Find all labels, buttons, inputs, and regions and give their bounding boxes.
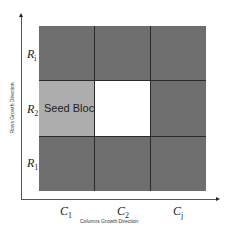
block-r2-c2	[95, 81, 150, 135]
seed-block-label: Seed Block	[44, 102, 100, 114]
col-label-subscript: j	[181, 211, 183, 220]
x-axis-arrow-icon	[216, 197, 220, 201]
block-ri-c2	[95, 26, 150, 80]
row-label-ri: Ri	[27, 47, 37, 63]
row-label-r1: R1	[27, 156, 38, 172]
col-label-c1: C1	[60, 204, 72, 220]
row-label-subscript: 2	[34, 109, 38, 118]
block-r1-c2	[95, 137, 150, 191]
col-label-c2: C2	[117, 204, 129, 220]
y-axis-title: Rows Growth Direction	[9, 82, 15, 133]
block-ri-c1	[39, 26, 94, 80]
y-axis-arrow-icon	[19, 13, 23, 17]
row-label-r2: R2	[27, 102, 38, 118]
col-label-letter: C	[60, 204, 68, 218]
block-grid: Seed Block	[39, 26, 206, 191]
row-label-subscript: 1	[34, 163, 38, 172]
y-axis	[21, 15, 22, 200]
col-label-letter: C	[173, 204, 181, 218]
x-axis-title: Columns Growth Direction	[80, 218, 138, 224]
x-axis	[21, 199, 217, 200]
col-label-letter: C	[117, 204, 125, 218]
block-ri-cj	[151, 26, 206, 80]
row-label-subscript: i	[34, 54, 36, 63]
block-r2-cj	[151, 81, 206, 135]
seed-block: Seed Block	[39, 81, 94, 135]
col-label-cj: Cj	[173, 204, 183, 220]
block-r1-c1	[39, 137, 94, 191]
col-label-subscript: 2	[125, 211, 129, 220]
block-r1-cj	[151, 137, 206, 191]
col-label-subscript: 1	[68, 211, 72, 220]
